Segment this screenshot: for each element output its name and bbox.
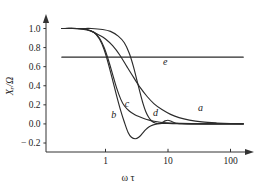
curve-label-d: d <box>153 107 159 118</box>
y-tick-label: 0.0 <box>29 119 41 129</box>
y-axis-arrow-icon <box>43 14 49 23</box>
curve-labels: abcde <box>111 56 203 120</box>
chart-figure: − 0.20.00.20.40.60.81.0110100 abcde ω τX… <box>0 0 265 188</box>
x-tick-label: 10 <box>163 156 173 166</box>
data-curves <box>62 28 243 138</box>
x-tick-label: 100 <box>223 156 238 166</box>
y-tick-label: 0.2 <box>29 100 41 110</box>
y-tick-label: 0.6 <box>29 62 41 72</box>
tick-labels: − 0.20.00.20.40.60.81.0110100 <box>21 24 238 166</box>
y-axis-title: Xᵣ/Ω <box>4 77 15 97</box>
curve-label-c: c <box>125 98 130 109</box>
y-tick-label: − 0.2 <box>21 138 41 148</box>
axis-titles: ω τXᵣ/Ω <box>4 77 135 183</box>
x-axis-title: ω τ <box>121 172 134 183</box>
x-tick-label: 1 <box>103 156 108 166</box>
axes <box>43 14 254 155</box>
y-tick-label: 0.8 <box>29 43 41 53</box>
curve-label-a: a <box>198 102 203 113</box>
tick-marks <box>43 29 230 153</box>
y-tick-label: 1.0 <box>29 24 41 34</box>
curve-label-e: e <box>163 56 168 67</box>
y-tick-label: 0.4 <box>29 81 41 91</box>
chart-plot-area: − 0.20.00.20.40.60.81.0110100 abcde ω τX… <box>0 0 265 188</box>
x-axis-arrow-icon <box>245 149 254 155</box>
curve-label-b: b <box>111 109 116 120</box>
